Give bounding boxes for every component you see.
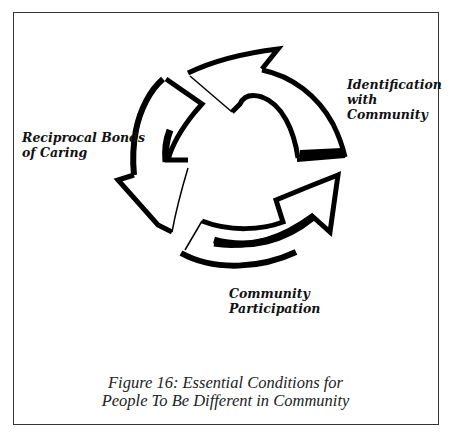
figure-caption: Figure 16: Essential Conditions for Peop… — [0, 374, 451, 410]
label-reciprocal-line1: Reciprocal Bonds — [22, 130, 145, 145]
label-participation-line1: Community — [229, 286, 320, 301]
label-participation: Community Participation — [229, 286, 320, 316]
caption-line1: Figure 16: Essential Conditions for — [0, 374, 451, 392]
label-reciprocal-line2: of Caring — [22, 145, 145, 160]
label-identification-line2: with — [347, 92, 442, 107]
label-identification: Identification with Community — [347, 77, 442, 122]
label-identification-line1: Identification — [347, 77, 442, 92]
arrow-participation-icon — [181, 175, 338, 266]
label-identification-line3: Community — [347, 107, 442, 122]
caption-line2: People To Be Different in Community — [0, 392, 451, 410]
label-reciprocal: Reciprocal Bonds of Caring — [22, 130, 145, 160]
label-participation-line2: Participation — [229, 301, 320, 316]
arrow-identification-icon — [188, 49, 345, 160]
